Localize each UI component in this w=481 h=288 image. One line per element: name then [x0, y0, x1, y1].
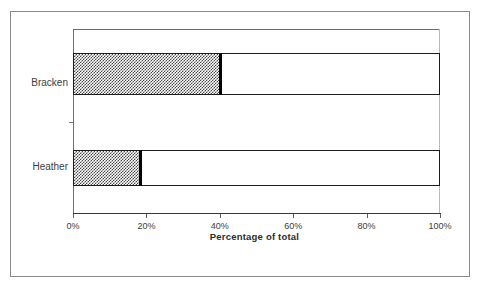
x-axis-tick-label-1: 20% [137, 221, 155, 231]
x-axis-tick-2 [220, 214, 221, 218]
x-axis-tick-0 [73, 214, 74, 218]
x-axis-tick-label-5: 100% [428, 221, 451, 231]
x-axis-tick-5 [440, 214, 441, 218]
x-axis-tick-3 [293, 214, 294, 218]
x-axis-title-text: Percentage of total [210, 231, 299, 242]
chart-figure: Bracken Heather 0%20%40%60%80%100% Perce… [0, 0, 481, 288]
x-axis-tick-1 [146, 214, 147, 218]
plot-frame-top-line [73, 29, 440, 30]
x-axis-tick-label-3: 60% [284, 221, 302, 231]
x-axis-title: Percentage of total [0, 231, 481, 242]
bar-heather-filled-segment [73, 150, 142, 186]
plot-area: 0%20%40%60%80%100% [73, 29, 440, 213]
y-axis-category-tick [69, 122, 74, 123]
x-axis-line [73, 213, 441, 214]
x-axis-tick-4 [367, 214, 368, 218]
x-axis-tick-label-2: 40% [211, 221, 229, 231]
category-label-heather: Heather [18, 161, 68, 172]
x-axis-tick-label-4: 80% [358, 221, 376, 231]
category-label-bracken: Bracken [18, 77, 68, 88]
bar-bracken-filled-segment [73, 53, 222, 95]
x-axis-tick-label-0: 0% [66, 221, 79, 231]
